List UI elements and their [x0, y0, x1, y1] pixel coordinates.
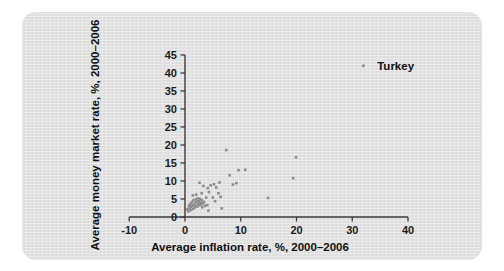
y-tick-label: 40 — [165, 67, 177, 79]
y-tick-label: 5 — [171, 193, 177, 205]
y-tick-label: 25 — [165, 121, 177, 133]
y-tick-label: 15 — [165, 157, 177, 169]
y-tick-label: 10 — [165, 175, 177, 187]
data-point — [232, 183, 235, 186]
data-point — [201, 206, 204, 209]
annotation-label-turkey: Turkey — [377, 60, 414, 72]
data-point — [235, 182, 238, 185]
y-tick-label: 0 — [171, 211, 177, 223]
x-axis-tick-labels: -10010203040 — [121, 224, 414, 236]
data-point — [202, 185, 205, 188]
y-tick-label: 30 — [165, 103, 177, 115]
y-tick-label: 35 — [165, 85, 177, 97]
x-tick-label: 30 — [346, 224, 358, 236]
annotations-layer: Turkey — [377, 60, 414, 72]
data-point — [362, 65, 365, 68]
data-point — [205, 196, 208, 199]
data-point — [267, 197, 270, 200]
data-point — [219, 196, 222, 199]
data-point — [214, 200, 217, 203]
data-point — [292, 177, 295, 180]
data-point — [204, 205, 207, 208]
data-point — [295, 156, 298, 159]
x-tick-label: 40 — [402, 224, 414, 236]
data-point — [197, 197, 200, 200]
data-point — [203, 201, 206, 204]
data-point — [244, 169, 247, 172]
data-point — [187, 210, 190, 213]
data-point — [208, 191, 211, 194]
data-point — [209, 184, 212, 187]
data-point — [196, 205, 199, 208]
data-point — [207, 187, 210, 190]
y-axis-tick-labels: 051015202530354045 — [165, 49, 177, 223]
data-point — [221, 207, 224, 210]
data-point — [237, 169, 240, 172]
data-point — [212, 196, 215, 199]
x-tick-label: -10 — [121, 224, 137, 236]
data-point — [225, 149, 228, 152]
scatter-plot: -10010203040 051015202530354045 Turkey A… — [0, 0, 504, 271]
data-point — [228, 174, 231, 177]
figure-container: -10010203040 051015202530354045 Turkey A… — [0, 0, 504, 271]
y-axis-title: Average money market rate, %, 2000–2006 — [89, 20, 101, 251]
data-point — [217, 192, 220, 195]
data-point — [195, 193, 198, 196]
data-point — [189, 209, 192, 212]
data-point — [206, 204, 209, 207]
data-point — [198, 182, 201, 185]
data-point — [192, 199, 195, 202]
data-point — [215, 186, 218, 189]
y-tick-label: 20 — [165, 139, 177, 151]
x-axis-title: Average inflation rate, %, 2000–2006 — [151, 241, 349, 253]
y-tick-label: 45 — [165, 49, 177, 61]
data-point — [200, 199, 203, 202]
data-point — [200, 192, 203, 195]
data-point — [207, 209, 210, 212]
data-point — [218, 181, 221, 184]
x-tick-label: 0 — [182, 224, 188, 236]
data-point — [192, 194, 195, 197]
x-tick-label: 10 — [235, 224, 247, 236]
x-tick-label: 20 — [290, 224, 302, 236]
data-points-layer — [186, 65, 365, 213]
data-point — [213, 183, 216, 186]
